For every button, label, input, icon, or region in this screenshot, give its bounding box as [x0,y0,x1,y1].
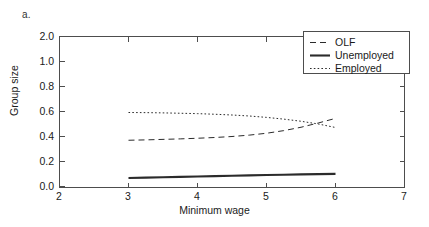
y-tick-label-3: 0.6 [39,105,54,117]
y-tick-label-0: 0.0 [39,180,54,192]
data-series [129,113,336,179]
x-tick-label-2: 4 [194,190,200,202]
legend-label-unemployed: Unemployed [335,49,394,61]
x-tick-label-3: 5 [263,190,269,202]
x-axis-label: Minimum wage [0,205,429,216]
figure-panel-a: a. [0,0,429,227]
y-tick-label-2: 0.4 [39,130,54,142]
legend[interactable]: OLF Unemployed Employed [304,32,410,75]
line-chart: 2.0 1.0 0.8 0.6 0.4 0.2 0.0 2 3 4 5 6 7 [0,0,429,227]
y-tick-label-5: 1.0 [39,55,54,67]
x-tick-label-4: 6 [332,190,338,202]
legend-label-employed: Employed [335,62,382,74]
x-tick-label-1: 3 [125,190,131,202]
y-axis-label: Group size [9,56,20,126]
y-tick-labels: 2.0 1.0 0.8 0.6 0.4 0.2 0.0 [39,30,54,192]
x-tick-label-5: 7 [401,190,407,202]
legend-label-olf: OLF [335,36,355,48]
series-line-employed [129,113,336,128]
y-tick-label-6: 2.0 [39,30,54,42]
y-tick-label-1: 0.2 [39,155,54,167]
x-tick-labels: 2 3 4 5 6 7 [56,190,407,202]
y-tick-label-4: 0.8 [39,80,54,92]
x-tick-label-0: 2 [56,190,62,202]
series-line-unemployed [129,174,336,178]
